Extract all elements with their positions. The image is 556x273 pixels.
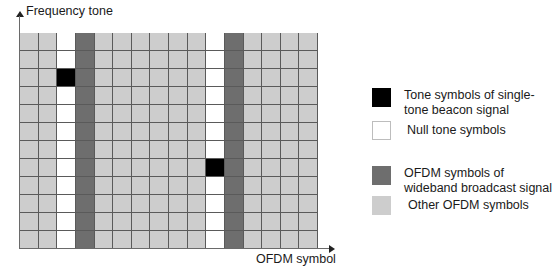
wideband-ofdm-cell — [76, 87, 95, 105]
null-tone-cell — [57, 177, 76, 195]
other-ofdm-cell — [39, 33, 58, 51]
other-ofdm-cell — [281, 51, 300, 69]
null-swatch-icon — [372, 121, 391, 140]
wideband-ofdm-cell — [76, 69, 95, 87]
other-ofdm-cell — [262, 51, 281, 69]
other-ofdm-cell — [299, 51, 318, 69]
other-ofdm-cell — [262, 87, 281, 105]
other-ofdm-cell — [20, 231, 39, 249]
other-ofdm-cell — [244, 69, 263, 87]
other-ofdm-cell — [244, 177, 263, 195]
other-ofdm-cell — [299, 69, 318, 87]
other-ofdm-cell — [132, 141, 151, 159]
null-tone-cell — [57, 87, 76, 105]
legend: Tone symbols of single-tone beacon signa… — [372, 0, 556, 273]
other-ofdm-cell — [95, 33, 114, 51]
other-ofdm-cell — [132, 231, 151, 249]
y-axis-arrow-icon — [16, 11, 24, 17]
other-ofdm-cell — [244, 87, 263, 105]
other-ofdm-cell — [169, 51, 188, 69]
wideband-ofdm-cell — [76, 51, 95, 69]
other-ofdm-cell — [95, 51, 114, 69]
other-ofdm-cell — [20, 213, 39, 231]
other-ofdm-cell — [150, 231, 169, 249]
null-tone-cell — [206, 87, 225, 105]
x-axis — [19, 248, 330, 249]
null-tone-cell — [206, 231, 225, 249]
other-ofdm-cell — [169, 195, 188, 213]
other-ofdm-cell — [39, 51, 58, 69]
other-ofdm-cell — [299, 159, 318, 177]
other-ofdm-cell — [169, 159, 188, 177]
other-ofdm-cell — [150, 141, 169, 159]
other-ofdm-cell — [262, 123, 281, 141]
other-ofdm-cell — [188, 195, 207, 213]
other-ofdm-cell — [169, 231, 188, 249]
other-ofdm-cell — [150, 87, 169, 105]
other-ofdm-cell — [95, 87, 114, 105]
wideband-ofdm-cell — [225, 69, 244, 87]
other-ofdm-cell — [39, 231, 58, 249]
other-ofdm-cell — [132, 105, 151, 123]
other-ofdm-cell — [169, 105, 188, 123]
wideband-ofdm-cell — [225, 213, 244, 231]
legend-label: Other OFDM symbols — [408, 196, 556, 213]
other-ofdm-cell — [95, 141, 114, 159]
other-ofdm-cell — [281, 213, 300, 231]
other-ofdm-cell — [244, 123, 263, 141]
other-ofdm-cell — [262, 195, 281, 213]
wideband-ofdm-cell — [225, 105, 244, 123]
other-ofdm-cell — [113, 195, 132, 213]
null-tone-cell — [206, 195, 225, 213]
other-ofdm-cell — [20, 141, 39, 159]
other-ofdm-cell — [95, 69, 114, 87]
wideband-ofdm-cell — [225, 177, 244, 195]
wideband-ofdm-cell — [225, 33, 244, 51]
other-ofdm-cell — [299, 177, 318, 195]
null-tone-cell — [206, 177, 225, 195]
other-ofdm-cell — [132, 51, 151, 69]
null-tone-cell — [206, 105, 225, 123]
other-ofdm-cell — [113, 123, 132, 141]
null-tone-cell — [206, 33, 225, 51]
other-ofdm-cell — [113, 51, 132, 69]
other-ofdm-cell — [20, 33, 39, 51]
other-ofdm-cell — [39, 159, 58, 177]
other-ofdm-cell — [188, 87, 207, 105]
other-ofdm-cell — [262, 213, 281, 231]
wideband-ofdm-cell — [225, 231, 244, 249]
other-ofdm-cell — [188, 177, 207, 195]
other-ofdm-cell — [244, 231, 263, 249]
other-ofdm-cell — [299, 87, 318, 105]
other-ofdm-cell — [299, 105, 318, 123]
other-ofdm-cell — [39, 141, 58, 159]
other-ofdm-cell — [150, 213, 169, 231]
other-ofdm-cell — [262, 159, 281, 177]
other-ofdm-cell — [281, 123, 300, 141]
other-ofdm-cell — [39, 105, 58, 123]
other-ofdm-cell — [113, 231, 132, 249]
other-ofdm-cell — [281, 87, 300, 105]
other-ofdm-cell — [262, 231, 281, 249]
legend-item-other: Other OFDM symbols — [372, 196, 556, 215]
other-ofdm-cell — [262, 105, 281, 123]
other-ofdm-cell — [95, 123, 114, 141]
other-ofdm-cell — [150, 159, 169, 177]
time-frequency-grid — [20, 33, 318, 249]
other-ofdm-cell — [188, 231, 207, 249]
other-ofdm-cell — [262, 33, 281, 51]
other-ofdm-cell — [95, 213, 114, 231]
other-ofdm-cell — [20, 159, 39, 177]
other-ofdm-cell — [299, 231, 318, 249]
other-ofdm-cell — [169, 69, 188, 87]
other-ofdm-cell — [169, 213, 188, 231]
other-ofdm-cell — [244, 33, 263, 51]
other-ofdm-cell — [188, 213, 207, 231]
null-tone-cell — [206, 123, 225, 141]
other-ofdm-cell — [39, 69, 58, 87]
null-tone-cell — [206, 141, 225, 159]
other-ofdm-cell — [281, 69, 300, 87]
beacon-swatch-icon — [372, 88, 391, 107]
null-tone-cell — [57, 231, 76, 249]
other-ofdm-cell — [281, 33, 300, 51]
